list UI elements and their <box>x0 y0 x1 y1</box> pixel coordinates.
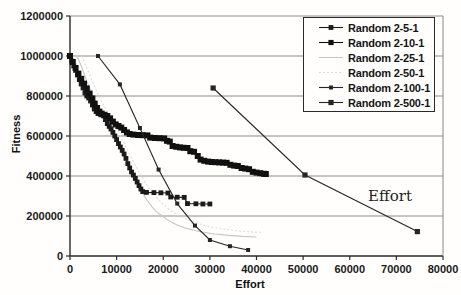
series-marker <box>207 202 212 207</box>
y-axis-title: Fitness <box>10 104 22 164</box>
series-marker <box>144 190 149 195</box>
legend-item: Random 2-50-1 <box>304 65 434 80</box>
legend-sample-line <box>318 83 344 92</box>
series-marker <box>182 195 187 200</box>
legend-sample-marker <box>329 25 334 30</box>
series-marker <box>67 53 73 59</box>
series-marker <box>118 82 122 86</box>
series-marker <box>159 190 164 195</box>
plot-annotation-effort: Effort <box>358 187 422 205</box>
y-tick-label: 1000000 <box>20 50 63 62</box>
y-tick-label: 400000 <box>26 170 63 182</box>
series-marker <box>125 161 130 166</box>
series-marker <box>152 190 157 195</box>
x-tick-label: 40000 <box>241 263 272 275</box>
x-tick-label: 10000 <box>101 263 132 275</box>
series-marker <box>96 54 100 58</box>
series-marker <box>302 172 307 177</box>
legend-item: Random 2-500-1 <box>304 95 434 110</box>
legend-label: Random 2-500-1 <box>348 97 430 109</box>
series-marker <box>415 229 420 234</box>
series-marker <box>208 238 212 242</box>
legend-label: Random 2-25-1 <box>348 52 424 64</box>
series-marker <box>84 85 90 91</box>
series-marker <box>175 195 180 200</box>
legend-sample-line <box>318 68 344 77</box>
series-marker <box>185 201 190 206</box>
legend-item: Random 2-100-1 <box>304 80 434 95</box>
legend-label: Random 2-5-1 <box>348 22 418 34</box>
series-marker <box>122 152 127 157</box>
series-marker <box>73 65 79 71</box>
legend-sample-line <box>318 38 344 47</box>
y-tick-label: 600000 <box>26 130 63 142</box>
legend-item: Random 2-10-1 <box>304 35 434 50</box>
x-tick-label: 60000 <box>334 263 365 275</box>
x-tick-label: 80000 <box>428 263 459 275</box>
y-tick-label: 800000 <box>26 90 63 102</box>
legend-item: Random 2-5-1 <box>304 20 434 35</box>
x-tick-label: 70000 <box>381 263 412 275</box>
legend-label: Random 2-50-1 <box>348 67 424 79</box>
y-tick-label: 1200000 <box>20 10 63 22</box>
legend-sample-marker <box>328 100 333 105</box>
series-marker <box>70 59 76 65</box>
x-tick-label: 0 <box>67 263 73 275</box>
series-marker <box>175 202 179 206</box>
legend-sample-marker <box>329 86 333 90</box>
series-marker <box>157 168 161 172</box>
y-tick-label: 200000 <box>26 210 63 222</box>
legend-label: Random 2-100-1 <box>348 82 430 94</box>
legend-sample-line <box>318 53 344 62</box>
legend-item: Random 2-25-1 <box>304 50 434 65</box>
x-tick-label: 50000 <box>288 263 319 275</box>
series-marker <box>200 202 205 207</box>
legend-box: Random 2-5-1 Random 2-10-1 Random 2-25-1… <box>303 17 435 112</box>
legend-sample-marker <box>328 40 333 45</box>
series-marker <box>228 244 232 248</box>
series-marker <box>193 224 197 228</box>
series-marker <box>89 95 95 101</box>
y-tick-label: 0 <box>57 250 63 262</box>
series-marker <box>193 201 198 206</box>
series-marker <box>138 126 142 130</box>
series-marker <box>75 71 81 77</box>
series-line <box>77 56 257 237</box>
legend-label: Random 2-10-1 <box>348 37 424 49</box>
chart-figure: 0200000400000600000800000100000012000000… <box>0 0 461 295</box>
series-marker <box>263 171 269 177</box>
x-tick-label: 20000 <box>148 263 179 275</box>
series-marker <box>246 248 250 252</box>
x-tick-label: 30000 <box>195 263 226 275</box>
series-marker <box>124 156 129 161</box>
legend-sample-line <box>318 98 344 107</box>
series-marker <box>211 85 216 90</box>
x-axis-title: Effort <box>210 278 290 290</box>
legend-sample-line <box>318 23 344 32</box>
